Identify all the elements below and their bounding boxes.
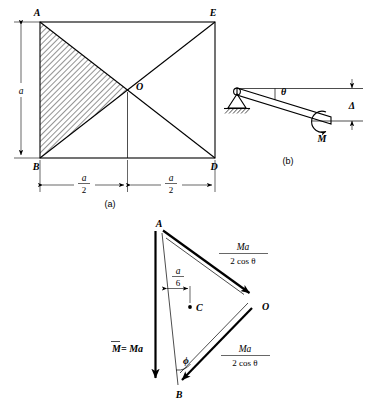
panel-c-group: A O B C a 6 ϕ M = Ma Ma	[111, 218, 270, 400]
label-force-lower-group: Ma 2 cos θ	[221, 344, 270, 368]
label-angle-theta: θ	[281, 86, 287, 97]
label-vertex-A: A	[155, 218, 163, 229]
label-point-E: E	[209, 7, 217, 18]
label-vertex-O: O	[262, 301, 269, 312]
figure-canvas: A E B D O a a 2 a	[0, 0, 379, 404]
vector-force-lower	[180, 303, 252, 380]
label-moment-M: M	[317, 133, 328, 144]
dimension-label-left-den: 2	[82, 185, 87, 195]
label-angle-phi: ϕ	[183, 355, 189, 366]
engineering-figure: A E B D O a a 2 a	[0, 0, 379, 404]
hatched-triangle-AOB	[40, 22, 128, 158]
dimension-label-height: a	[19, 86, 24, 96]
label-point-A: A	[33, 7, 41, 18]
label-resultant-moment-group: M = Ma	[111, 342, 143, 355]
panel-a-group: A E B D O a a 2 a	[14, 7, 218, 209]
label-deflection-delta: Δ	[348, 100, 355, 111]
dimension-label-a6-den: 6	[176, 278, 181, 288]
triangle-side-A-B	[162, 233, 178, 385]
label-force-upper-den: 2 cos θ	[230, 256, 255, 266]
label-force-upper-num: Ma	[236, 242, 250, 252]
label-resultant-moment-rest: = Ma	[121, 343, 143, 354]
dimension-label-right-den: 2	[169, 185, 174, 195]
label-point-D: D	[209, 161, 217, 172]
caption-panel-a: (a)	[105, 199, 116, 209]
panel-b-group: θ M Δ (b)	[224, 79, 363, 166]
dimension-label-right-num: a	[169, 173, 174, 183]
label-force-upper-group: Ma 2 cos θ	[219, 242, 268, 266]
centroid-point-marker	[188, 305, 192, 309]
support-triangle	[228, 94, 246, 108]
dimension-label-left-num: a	[82, 173, 87, 183]
caption-panel-b: (b)	[283, 156, 294, 166]
label-vertex-B: B	[175, 389, 183, 400]
label-point-C: C	[196, 302, 203, 313]
label-force-lower-den: 2 cos θ	[232, 358, 257, 368]
label-force-lower-num: Ma	[238, 344, 252, 354]
ground-hatching	[225, 109, 250, 114]
dimension-label-a6-num: a	[176, 266, 181, 276]
label-point-O: O	[136, 81, 143, 92]
label-point-B: B	[32, 161, 40, 172]
